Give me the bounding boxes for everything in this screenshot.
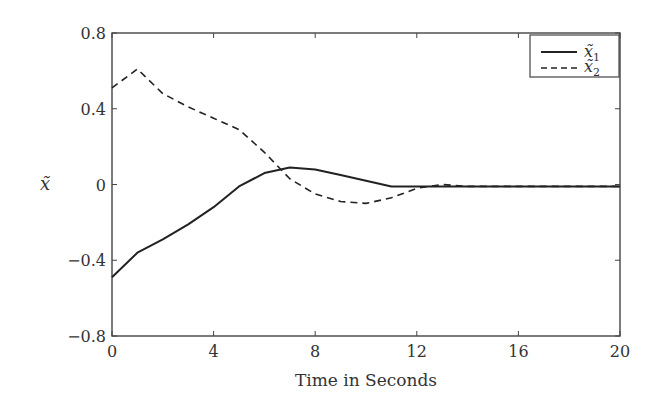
legend: x̃1 x̃2 xyxy=(530,35,619,79)
x-tick-label: 16 xyxy=(508,342,528,361)
x-tick-label: 12 xyxy=(407,342,427,361)
y-tick-label: 0 xyxy=(96,176,106,195)
legend-box xyxy=(530,35,619,77)
x-axis-label: Time in Seconds xyxy=(295,370,437,390)
x-tick-label: 4 xyxy=(209,342,219,361)
x-axis-ticks: 048121620 xyxy=(107,33,630,361)
y-tick-label: −0.8 xyxy=(67,327,106,346)
series-line-1 xyxy=(112,168,620,278)
plot-area xyxy=(112,33,620,336)
y-tick-label: 0.8 xyxy=(81,24,106,43)
series-lines xyxy=(112,69,620,277)
x-tick-label: 0 xyxy=(107,342,117,361)
x-tick-label: 8 xyxy=(310,342,320,361)
y-axis-label: x̃ xyxy=(40,173,51,194)
y-tick-label: 0.4 xyxy=(81,100,106,119)
y-tick-label: −0.4 xyxy=(67,251,106,270)
x-tick-label: 20 xyxy=(610,342,630,361)
series-line-2 xyxy=(112,69,620,203)
plot-border xyxy=(112,33,620,336)
line-chart: 048121620 0.80.40−0.4−0.8 Time in Second… xyxy=(0,0,656,413)
